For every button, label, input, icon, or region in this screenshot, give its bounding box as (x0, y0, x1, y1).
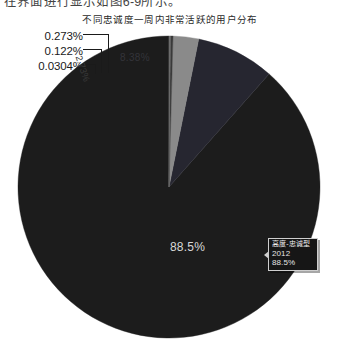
tooltip-title: 高度-忠诚型 (272, 240, 314, 249)
pie-callout-label-2: 0.0304% (0, 60, 83, 72)
pie-callout-label-0: 0.273% (0, 30, 83, 42)
tooltip-pointer-icon (264, 251, 269, 259)
pie-callout-label-1: 0.122% (0, 45, 83, 57)
tooltip-value: 2012 (272, 249, 314, 259)
chart-tooltip: 高度-忠诚型 2012 88.5% (268, 238, 318, 271)
pie-slice-label-second: 8.38% (120, 52, 150, 63)
tooltip-percent: 88.5% (272, 258, 314, 268)
pie-slice-group (18, 36, 320, 338)
pie-slice-label-main: 88.5% (170, 240, 205, 254)
